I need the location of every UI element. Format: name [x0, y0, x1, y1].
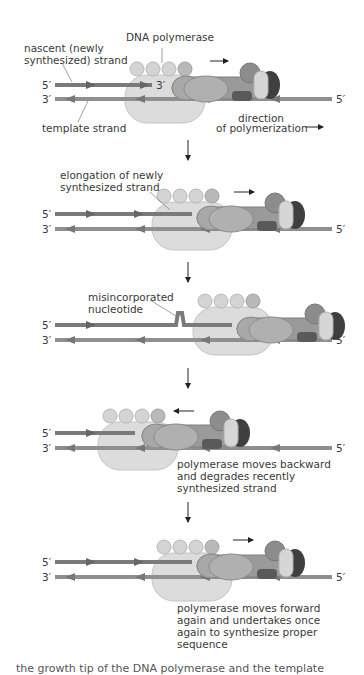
label-template-strand: template strand — [42, 122, 126, 134]
panel-elongation — [55, 189, 332, 250]
end-label-3prime: 3′ — [42, 223, 51, 235]
end-label-5prime: 5′ — [42, 556, 51, 568]
label-nascent-strand-1: nascent (newly — [24, 42, 104, 54]
label-forward-3: again to synthesize proper — [177, 626, 317, 638]
end-label-3prime: 3′ — [156, 79, 165, 91]
end-label-5prime: 5′ — [42, 208, 51, 220]
label-forward-1: polymerase moves forward — [177, 602, 320, 614]
end-label-5prime: 5′ — [336, 223, 345, 235]
end-label-5prime: 5′ — [336, 442, 345, 454]
end-label-3prime: 3′ — [42, 571, 51, 583]
end-label-5prime: 5′ — [336, 334, 345, 346]
end-label-5prime: 5′ — [42, 427, 51, 439]
label-elongation-1: elongation of newly — [60, 169, 163, 181]
end-label-5prime: 5′ — [42, 79, 51, 91]
label-dna-polymerase: DNA polymerase — [126, 31, 214, 43]
label-elongation-2: synthesized strand — [60, 181, 160, 193]
label-backward-3: synthesized strand — [177, 482, 277, 494]
end-label-3prime: 3′ — [42, 93, 51, 105]
label-backward-1: polymerase moves backward — [177, 458, 331, 470]
label-forward-4: sequence — [177, 638, 228, 650]
end-label-3prime: 3′ — [42, 334, 51, 346]
end-label-5prime: 5′ — [42, 319, 51, 331]
label-nascent-strand-2: synthesized) strand — [24, 54, 128, 66]
label-misincorporated-1: misincorporated — [88, 291, 174, 303]
label-misincorporated-2: nucleotide — [88, 303, 143, 315]
end-label-5prime: 5′ — [336, 93, 345, 105]
end-label-5prime: 5′ — [336, 571, 345, 583]
label-forward-2: again and undertakes once — [177, 614, 320, 626]
end-label-3prime: 3′ — [42, 442, 51, 454]
label-backward-2: and degrades recently — [177, 470, 295, 482]
panel-forward — [55, 540, 332, 601]
label-direction-2: of polymerization — [216, 122, 308, 134]
figure-caption-partial: the growth tip of the DNA polymerase and… — [16, 662, 324, 675]
